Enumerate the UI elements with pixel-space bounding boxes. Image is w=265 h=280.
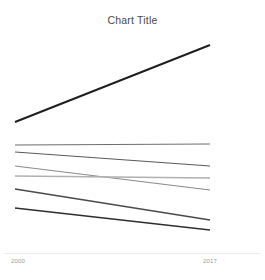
series-line	[15, 152, 210, 166]
x-axis-tick-right: 2017	[203, 258, 217, 264]
series-line	[15, 189, 210, 220]
series-line	[15, 144, 210, 145]
x-axis-tick-left: 2000	[11, 258, 25, 264]
chart-container: Chart Title 2000 2017	[0, 0, 265, 280]
series-lines	[15, 45, 210, 230]
series-line	[15, 45, 210, 122]
series-line	[15, 208, 210, 230]
plot-area	[0, 0, 265, 280]
